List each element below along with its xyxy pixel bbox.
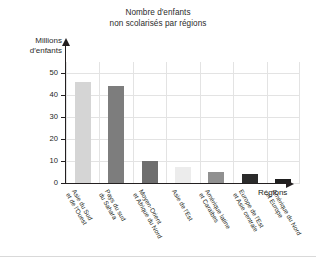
x-axis-arrow-icon bbox=[286, 180, 294, 188]
bar bbox=[108, 86, 124, 183]
bar bbox=[208, 172, 224, 183]
y-tick-label: 20 bbox=[36, 135, 58, 143]
gridline-vertical bbox=[299, 62, 300, 183]
gridline-horizontal bbox=[66, 95, 300, 96]
chart-title-line-2: non scolarisés par régions bbox=[0, 19, 316, 30]
chart-figure: Nombre d′enfants non scolarisés par régi… bbox=[0, 0, 316, 260]
plot-area bbox=[66, 62, 300, 183]
bar bbox=[242, 174, 258, 183]
x-tick-label: Moyen-Orientet Afrique du Nord bbox=[131, 188, 170, 240]
gridline-vertical bbox=[200, 62, 201, 183]
y-axis-title-line-2: d′enfants bbox=[4, 46, 62, 56]
x-tick-label-line: Asie de l′Est bbox=[171, 188, 195, 222]
gridline-vertical bbox=[267, 62, 268, 183]
chart-title-line-1: Nombre d′enfants bbox=[0, 8, 316, 19]
y-tick-mark bbox=[61, 95, 66, 96]
bar bbox=[75, 82, 91, 183]
bar bbox=[142, 161, 158, 183]
y-axis-title: Millions d′enfants bbox=[4, 36, 62, 56]
chart-title: Nombre d′enfants non scolarisés par régi… bbox=[0, 8, 316, 29]
y-tick-label: 30 bbox=[36, 113, 58, 121]
x-tick-label: Amérique latineet Caraïbes bbox=[198, 188, 233, 234]
x-tick-label: Asie de l′Est bbox=[171, 188, 195, 222]
y-tick-label: 0 bbox=[36, 179, 58, 187]
x-tick-label: Asie du Sudet de l′Ouest bbox=[64, 188, 95, 226]
gridline-horizontal bbox=[66, 161, 300, 162]
gridline-vertical bbox=[233, 62, 234, 183]
y-tick-mark bbox=[61, 117, 66, 118]
x-axis-title: Régions bbox=[258, 188, 287, 197]
y-tick-mark bbox=[61, 183, 66, 184]
gridline-horizontal bbox=[66, 73, 300, 74]
gridline-vertical bbox=[133, 62, 134, 183]
gridline-vertical bbox=[166, 62, 167, 183]
y-tick-mark bbox=[61, 73, 66, 74]
y-axis-title-line-1: Millions bbox=[4, 36, 62, 46]
y-tick-mark bbox=[61, 161, 66, 162]
x-axis-line bbox=[65, 183, 287, 184]
y-axis-line bbox=[65, 45, 66, 183]
x-tick-label: Pays du suddu Sahara bbox=[97, 188, 127, 226]
scan-edge bbox=[0, 256, 316, 260]
y-tick-label: 10 bbox=[36, 157, 58, 165]
y-tick-label: 40 bbox=[36, 91, 58, 99]
gridline-vertical bbox=[99, 62, 100, 183]
y-tick-mark bbox=[61, 139, 66, 140]
y-axis-arrow-icon bbox=[62, 38, 70, 46]
gridline-horizontal bbox=[66, 139, 300, 140]
y-tick-label: 50 bbox=[36, 69, 58, 77]
bar bbox=[175, 167, 191, 184]
gridline-horizontal bbox=[66, 117, 300, 118]
